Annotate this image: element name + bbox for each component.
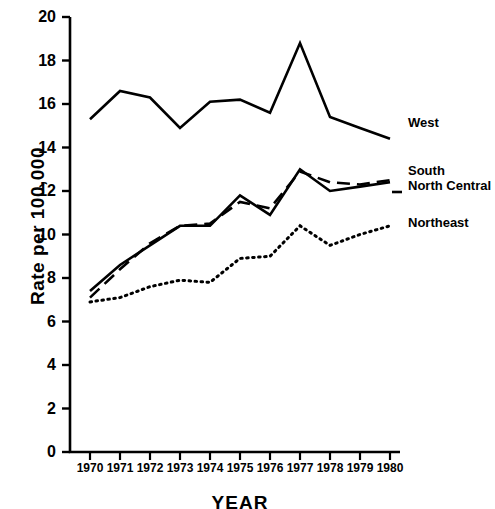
data-series: [90, 43, 390, 302]
y-tick-label: 14: [16, 140, 56, 156]
y-tick-label: 4: [16, 357, 56, 373]
series-line-north-central: [90, 171, 390, 297]
y-tick-label: 6: [16, 314, 56, 330]
x-tick-label: 1980: [368, 462, 412, 475]
y-tick-label: 18: [16, 53, 56, 69]
series-line-northeast: [90, 226, 390, 302]
x-axis-title: YEAR: [90, 492, 390, 509]
plot-area: [0, 0, 495, 509]
y-tick-label: 16: [16, 96, 56, 112]
y-tick-label: 0: [16, 444, 56, 460]
legend-item-northeast: Northeast: [408, 215, 469, 230]
series-line-west: [90, 43, 390, 139]
y-tick-label: 2: [16, 401, 56, 417]
legend-item-north-central: North Central: [408, 178, 491, 193]
legend-item-south: South: [408, 163, 445, 178]
y-tick-label: 12: [16, 183, 56, 199]
y-tick-label: 20: [16, 9, 56, 25]
y-tick-label: 8: [16, 270, 56, 286]
line-chart-figure: Rate per 100,000 YEAR 02468101214161820 …: [0, 0, 495, 509]
y-tick-label: 10: [16, 227, 56, 243]
series-line-south: [90, 169, 390, 291]
legend-item-west: West: [408, 115, 439, 130]
